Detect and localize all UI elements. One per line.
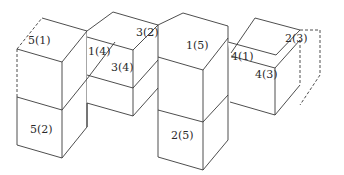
cube-column-center [158,13,228,170]
cube-label-4-1: 4(1) [231,50,254,63]
cube-diagram: 5(1) 5(2) 1(4) 3(2) 3(4) 1(5) 2(5) 4(1) … [0,0,344,175]
cube-label-1-4: 1(4) [88,45,111,58]
cube-label-2-5: 2(5) [171,129,194,142]
cube-label-5-2: 5(2) [30,123,53,136]
cube-label-3-4: 3(4) [111,61,134,74]
cube-label-2-3: 2(3) [285,32,308,45]
cube-label-5-1: 5(1) [28,34,51,47]
cube-label-4-3: 4(3) [255,68,278,81]
cube-label-1-5: 1(5) [186,39,209,52]
cube-label-3-2: 3(2) [136,26,159,39]
